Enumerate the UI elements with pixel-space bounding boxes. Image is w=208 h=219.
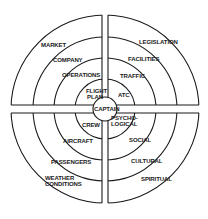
- label-traffic: TRAFFIC: [120, 73, 146, 79]
- concentric-diagram: CAPTAIN FLIGHT PLAN OPERATIONS COMPANY M…: [0, 0, 208, 219]
- label-cultural: CULTURAL: [131, 158, 163, 164]
- label-passengers: PASSENGERS: [51, 159, 91, 165]
- label-crew: CREW: [82, 122, 100, 128]
- label-logical: LOGICAL: [111, 121, 138, 127]
- quadrant-lower-left: CREW AIRCRAFT PASSENGERS WEATHER CONDITI…: [45, 122, 100, 187]
- label-spiritual: SPIRITUAL: [141, 176, 172, 182]
- label-market: MARKET: [41, 42, 66, 48]
- label-atc: ATC: [118, 92, 130, 98]
- label-facilities: FACILITIES: [128, 56, 159, 62]
- label-operations: OPERATIONS: [62, 72, 100, 78]
- label-aircraft: AIRCRAFT: [63, 138, 93, 144]
- label-conditions: CONDITIONS: [45, 181, 82, 187]
- quadrant-lower-right: PSYCHO- LOGICAL SOCIAL CULTURAL SPIRITUA…: [111, 115, 172, 182]
- label-plan: PLAN: [87, 94, 103, 100]
- label-legislation: LEGISLATION: [139, 39, 178, 45]
- label-company: COMPANY: [53, 57, 83, 63]
- quadrant-upper-left: FLIGHT PLAN OPERATIONS COMPANY MARKET: [41, 42, 107, 100]
- label-social: SOCIAL: [129, 137, 152, 143]
- center-label: CAPTAIN: [94, 106, 120, 112]
